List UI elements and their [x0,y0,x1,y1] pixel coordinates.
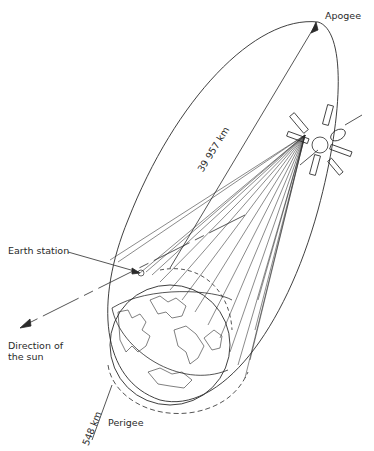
earth-station-leader [68,252,140,274]
satellite-beams [110,135,305,378]
earth-station-label: Earth station [8,245,69,256]
perigee-label: Perigee [108,417,144,428]
sun-direction-label-line1: Direction of [8,340,63,351]
earth-globe [108,269,248,414]
apogee-label: Apogee [325,10,361,21]
sun-direction-label-line2: the sun [8,351,44,362]
elliptical-orbit [108,22,339,402]
orbit-diagram [0,0,374,451]
apogee-axis [170,22,318,268]
